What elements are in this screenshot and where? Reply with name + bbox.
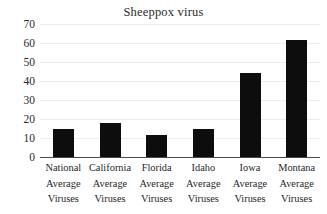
gridline (40, 24, 320, 25)
y-tick-label: 70 (4, 18, 35, 30)
bar-florida[interactable] (146, 135, 167, 157)
y-tick-label: 50 (4, 56, 35, 68)
y-tick-label: 40 (4, 75, 35, 87)
y-tick-label: 60 (4, 37, 35, 49)
gridline (40, 100, 320, 101)
x-tick-label-california: CaliforniaAverageViruses (87, 160, 133, 207)
gridline (40, 138, 320, 139)
x-tick-label-national: NationalAverageViruses (40, 160, 86, 207)
bar-california[interactable] (100, 123, 121, 157)
x-tick-label-florida: FloridaAverageViruses (134, 160, 180, 207)
gridline (40, 119, 320, 120)
y-tick-label: 20 (4, 113, 35, 125)
x-tick-label-montana: MontanaAverageViruses (274, 160, 320, 207)
y-tick-label: 10 (4, 132, 35, 144)
x-tick-label-iowa: IowaAverageViruses (227, 160, 273, 207)
bar-iowa[interactable] (240, 73, 261, 157)
gridline (40, 62, 320, 63)
y-tick-label: 30 (4, 94, 35, 106)
bar-montana[interactable] (286, 40, 307, 157)
gridline (40, 81, 320, 82)
chart-title: Sheeppox virus (0, 5, 327, 20)
x-axis-line (40, 157, 320, 158)
x-axis: NationalAverageViruses CaliforniaAverage… (40, 160, 320, 214)
bar-idaho[interactable] (193, 129, 214, 158)
gridline (40, 43, 320, 44)
plot-area (40, 24, 320, 157)
x-tick-label-idaho: IdahoAverageViruses (180, 160, 226, 207)
bar-national[interactable] (53, 129, 74, 158)
y-tick-label: 0 (4, 151, 35, 163)
bar-chart-figure: Sheeppox virus 70 60 50 40 30 20 10 0 Na… (0, 0, 327, 214)
